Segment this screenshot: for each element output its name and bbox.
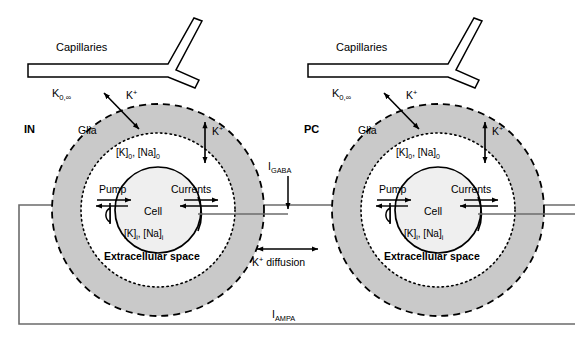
capillaries-label-right: Capillaries bbox=[336, 42, 387, 53]
ics-na-subscript-right: i bbox=[442, 234, 444, 241]
ecs-na-subscript-right: 0 bbox=[436, 153, 440, 160]
igaba-label: IGABA bbox=[268, 161, 291, 172]
k-flux-outer-charge-right: + bbox=[413, 88, 417, 97]
ics-k-symbol-right: [K] bbox=[404, 228, 416, 239]
ecs-na-symbol-right: , [Na] bbox=[412, 147, 436, 158]
k-bulk-infinity-left: ∞ bbox=[66, 93, 71, 102]
pump-label-right: Pump bbox=[379, 184, 406, 195]
extracellular-concentration-right: [K]0, [Na]0 bbox=[396, 148, 440, 158]
k-bulk-infinity-right: ∞ bbox=[346, 93, 351, 102]
intracellular-concentration-right: [K]i, [Na]i bbox=[404, 229, 443, 239]
ecs-k-symbol-left: [K] bbox=[116, 147, 128, 158]
iampa-subscript: AMPA bbox=[275, 314, 295, 323]
k-flux-outer-symbol-left: K bbox=[126, 89, 133, 101]
intracellular-concentration-left: [K]i, [Na]i bbox=[124, 229, 163, 239]
ecs-na-subscript-left: 0 bbox=[156, 153, 160, 160]
extracellular-space-label-left: Extracellular space bbox=[104, 251, 200, 262]
currents-label-right: Currents bbox=[451, 184, 491, 195]
k-diffusion-label: K+ diffusion bbox=[252, 257, 305, 268]
k-flux-outer-charge-left: + bbox=[133, 88, 137, 97]
capillary-vessel-right bbox=[308, 18, 482, 88]
k-bulk-label-right: K0,∞ bbox=[332, 88, 351, 99]
ics-na-subscript-left: i bbox=[162, 234, 164, 241]
k-flux-outer-label-left: K+ bbox=[126, 90, 137, 101]
pump-label-left: Pump bbox=[99, 184, 126, 195]
k-flux-outer-symbol-right: K bbox=[406, 89, 413, 101]
k-bulk-label-left: K0,∞ bbox=[52, 88, 71, 99]
cell-type-label-right: PC bbox=[304, 124, 319, 135]
glia-label-left: Glia bbox=[78, 125, 97, 136]
cell-label-left: Cell bbox=[144, 206, 162, 217]
diagram-canvas: Capillaries K0,∞ IN Glia K+ K+ [K]0, [Na… bbox=[0, 0, 575, 341]
cell-label-right: Cell bbox=[424, 206, 442, 217]
extracellular-space-label-right: Extracellular space bbox=[384, 251, 480, 262]
glia-label-right: Glia bbox=[358, 125, 377, 136]
ecs-na-symbol-left: , [Na] bbox=[132, 147, 156, 158]
k-flux-inner-label-right: K+ bbox=[492, 126, 503, 137]
capillaries-label-left: Capillaries bbox=[56, 42, 107, 53]
k-diffusion-text: diffusion bbox=[263, 256, 305, 268]
k-flux-inner-charge-left: + bbox=[219, 124, 223, 133]
k-flux-inner-symbol-right: K bbox=[492, 125, 499, 137]
igaba-subscript: GABA bbox=[271, 166, 291, 175]
k-flux-inner-symbol-left: K bbox=[212, 125, 219, 137]
k-diffusion-symbol: K bbox=[252, 256, 259, 268]
extracellular-concentration-left: [K]0, [Na]0 bbox=[116, 148, 160, 158]
iampa-label: IAMPA bbox=[272, 309, 295, 320]
k-flux-inner-charge-right: + bbox=[499, 124, 503, 133]
unit-left bbox=[28, 18, 288, 316]
currents-label-left: Currents bbox=[171, 184, 211, 195]
unit-right bbox=[308, 18, 575, 316]
ecs-k-symbol-right: [K] bbox=[396, 147, 408, 158]
capillary-vessel-left bbox=[28, 18, 202, 88]
k-flux-outer-label-right: K+ bbox=[406, 90, 417, 101]
ics-k-symbol-left: [K] bbox=[124, 228, 136, 239]
ics-na-symbol-left: , [Na] bbox=[138, 228, 162, 239]
ics-na-symbol-right: , [Na] bbox=[418, 228, 442, 239]
cell-type-label-left: IN bbox=[24, 124, 35, 135]
k-flux-inner-label-left: K+ bbox=[212, 126, 223, 137]
